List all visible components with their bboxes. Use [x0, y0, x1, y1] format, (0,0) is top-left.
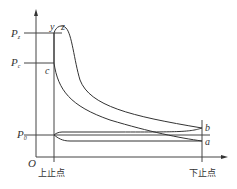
point-a-label: a [205, 136, 210, 147]
compression-curve [54, 63, 202, 141]
point-z-label: z [60, 21, 65, 32]
p0-label: P0 [16, 128, 27, 141]
pc-label: Pc [10, 56, 21, 69]
pz-label: Pz [10, 27, 21, 40]
point-b-label: b [205, 122, 210, 133]
x-axis-arrow-icon [221, 155, 228, 159]
exhaust-curve [54, 128, 202, 135]
bdc-label: 下止点 [189, 167, 216, 178]
expansion-curve [54, 26, 202, 128]
point-y-label: y [49, 21, 55, 32]
cycle-curves [54, 26, 202, 141]
origin-label: O [28, 157, 36, 169]
y-axis-arrow-icon [34, 9, 38, 16]
pv-diagram: Pz Pc P0 y z c b a O 上止点 下止点 [0, 0, 237, 189]
intake-curve [54, 135, 202, 141]
point-c-label: c [45, 65, 50, 76]
tdc-label: 上止点 [38, 167, 65, 178]
